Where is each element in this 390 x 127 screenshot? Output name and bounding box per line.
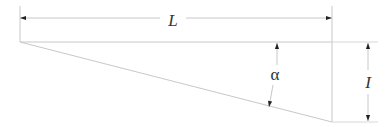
angle-arrow-bottom xyxy=(269,85,273,107)
triangle-hypotenuse xyxy=(20,42,332,122)
triangle-diagram: L I α xyxy=(0,0,390,127)
label-alpha: α xyxy=(271,65,280,84)
label-L: L xyxy=(167,11,177,30)
label-I: I xyxy=(364,73,372,92)
